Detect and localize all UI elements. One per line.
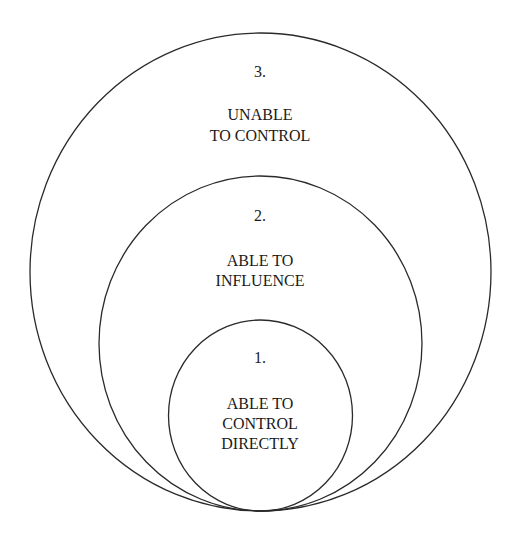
inner-circle-label-line-1: ABLE TO (227, 395, 294, 412)
middle-circle (99, 176, 422, 511)
middle-circle-number: 2. (254, 207, 266, 224)
middle-circle-label-line-2: INFLUENCE (216, 272, 305, 289)
circle-group-inner: 1. ABLE TO CONTROL DIRECTLY (169, 320, 353, 511)
control-circles-diagram: 3. UNABLE TO CONTROL 2. ABLE TO INFLUENC… (0, 0, 519, 539)
inner-circle-number: 1. (254, 349, 266, 366)
outer-circle-number: 3. (254, 63, 266, 80)
inner-circle-label-line-3: DIRECTLY (221, 435, 299, 452)
inner-circle-label-line-2: CONTROL (222, 415, 298, 432)
outer-circle-label-line-2: TO CONTROL (210, 127, 311, 144)
circle-group-middle: 2. ABLE TO INFLUENCE (99, 176, 422, 511)
outer-circle-label-line-1: UNABLE (228, 106, 293, 123)
middle-circle-label-line-1: ABLE TO (227, 252, 294, 269)
